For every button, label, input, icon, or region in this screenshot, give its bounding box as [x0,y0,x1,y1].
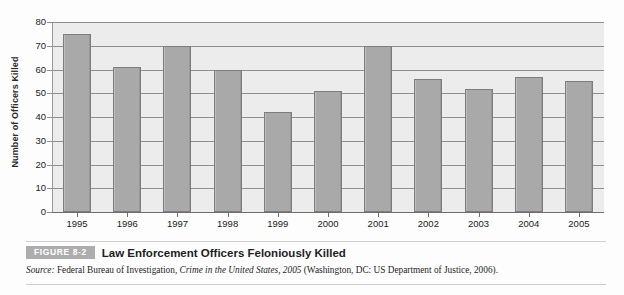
x-tick-label-2003: 2003 [452,218,506,229]
y-tick-label-70: 70 [20,40,46,51]
x-tick-mark-2001 [378,212,379,217]
source-suffix: (Washington, DC: US Department of Justic… [301,265,498,275]
x-tick-mark-1998 [228,212,229,217]
x-tick-label-1996: 1996 [100,218,154,229]
x-tick-mark-2004 [529,212,530,217]
x-tick-mark-1997 [177,212,178,217]
x-tick-label-2000: 2000 [301,218,355,229]
y-tick-label-80: 80 [20,16,46,27]
x-tick-label-1998: 1998 [201,218,255,229]
source-prefix: Source: [26,265,55,275]
figure-source: Source: Federal Bureau of Investigation,… [26,265,606,275]
source-publication: Crime in the United States, 2005 [180,265,302,275]
y-tick-label-30: 30 [20,135,46,146]
x-tick-mark-1996 [127,212,128,217]
x-tick-mark-1995 [77,212,78,217]
figure-caption: FIGURE 8-2 Law Enforcement Officers Felo… [26,246,606,275]
y-tick-mark-0 [47,212,52,213]
y-tick-label-0: 0 [20,206,46,217]
y-tick-label-10: 10 [20,182,46,193]
x-tick-label-2005: 2005 [552,218,606,229]
bar-chart: Number of Officers Killed 01020304050607… [0,0,624,240]
figure-container: Number of Officers Killed 01020304050607… [0,0,624,295]
caption-divider-top [26,241,606,242]
x-tick-mark-2002 [428,212,429,217]
figure-number-badge: FIGURE 8-2 [26,246,95,259]
x-tick-mark-2005 [579,212,580,217]
y-tick-label-40: 40 [20,111,46,122]
x-tick-label-2002: 2002 [401,218,455,229]
plot-wrapper: 01020304050607080 1995199619971998199920… [52,22,604,212]
x-tick-label-1999: 1999 [251,218,305,229]
y-tick-label-20: 20 [20,159,46,170]
x-tick-mark-2003 [479,212,480,217]
x-tick-label-1995: 1995 [50,218,104,229]
x-tick-label-2001: 2001 [351,218,405,229]
source-agency: Federal Bureau of Investigation, [55,265,180,275]
y-tick-label-50: 50 [20,87,46,98]
caption-divider-bottom [26,284,606,285]
x-axis-ticks: 1995199619971998199920002001200220032004… [52,22,604,212]
y-tick-label-60: 60 [20,64,46,75]
x-tick-mark-2000 [328,212,329,217]
figure-title: Law Enforcement Officers Feloniously Kil… [102,247,346,259]
x-tick-label-2004: 2004 [502,218,556,229]
x-tick-label-1997: 1997 [150,218,204,229]
x-tick-mark-1999 [278,212,279,217]
